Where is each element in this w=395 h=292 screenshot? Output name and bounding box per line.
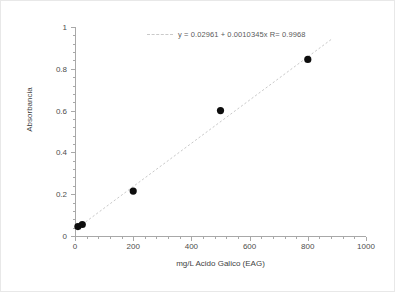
data-point bbox=[79, 221, 86, 228]
legend-line-swatch bbox=[147, 34, 173, 35]
data-point bbox=[130, 187, 137, 194]
legend: y = 0.02961 + 0.0010345x R= 0.9968 bbox=[147, 30, 305, 39]
data-point bbox=[217, 107, 224, 114]
scatter-points-layer bbox=[1, 1, 395, 292]
data-point bbox=[304, 56, 311, 63]
chart-figure: 02004006008001000 00.20.40.60.81 mg/L Ac… bbox=[0, 0, 395, 292]
legend-equation-label: y = 0.02961 + 0.0010345x R= 0.9968 bbox=[178, 30, 305, 39]
